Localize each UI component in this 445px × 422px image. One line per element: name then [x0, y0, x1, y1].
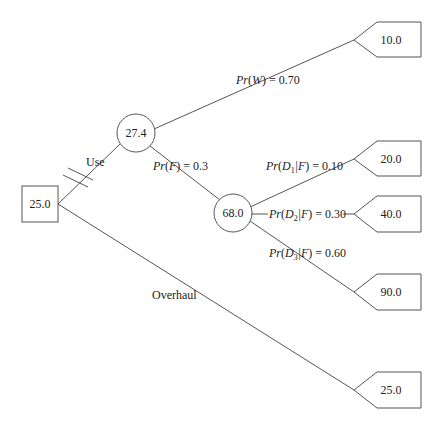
use-label: Use [86, 155, 105, 169]
terminal-node-d3: 90.0 [354, 274, 421, 310]
terminal-node-w: 10.0 [354, 22, 421, 57]
terminal-node-d1: 20.0 [354, 141, 421, 176]
terminal-value: 25.0 [381, 383, 402, 397]
use-branch-line [58, 144, 120, 204]
terminal-node-overhaul: 25.0 [354, 372, 421, 408]
prob-d3-label: Pr(D3|F) = 0.60 [268, 246, 346, 262]
terminal-value: 20.0 [381, 152, 402, 166]
pruned-mark-1 [63, 175, 88, 187]
terminal-node-d2: 40.0 [354, 196, 421, 232]
chance-node-failure-value: 68.0 [223, 206, 244, 220]
decision-tree-diagram: 25.0 27.4 68.0 10.0 20.0 40.0 90.0 25.0 … [0, 0, 445, 422]
prob-d2-label: Pr(D2|F) = 0.30 [268, 207, 346, 223]
chance-node-failure: 68.0 [214, 194, 252, 232]
overhaul-branch-line [58, 204, 354, 390]
prob-f-label: Pr(F) = 0.3 [152, 159, 208, 173]
prob-w-label: Pr(W) = 0.70 [235, 73, 300, 87]
decision-node: 25.0 [22, 186, 58, 222]
terminal-value: 40.0 [381, 207, 402, 221]
decision-node-value: 25.0 [30, 197, 51, 211]
overhaul-label: Overhaul [152, 288, 197, 302]
prob-d1-label: Pr(D1|F) = 0.10 [265, 159, 343, 175]
f-branch-line [150, 146, 220, 200]
terminal-value: 10.0 [381, 33, 402, 47]
chance-node-use: 27.4 [117, 114, 155, 152]
terminal-value: 90.0 [381, 285, 402, 299]
chance-node-use-value: 27.4 [126, 126, 147, 140]
